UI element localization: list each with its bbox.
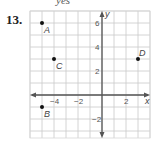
x-axis-label: x xyxy=(144,96,150,106)
point-label: B xyxy=(44,109,50,119)
point-label: D xyxy=(139,48,146,58)
y-tick-label: 4 xyxy=(95,43,100,52)
point-label: A xyxy=(43,25,50,35)
x-tick-label: −4 xyxy=(50,97,60,106)
y-axis-label: y xyxy=(104,9,110,19)
x-axis-left-arrow-icon xyxy=(30,93,36,98)
x-tick-label: −2 xyxy=(74,97,84,106)
y-tick-label: −2 xyxy=(92,115,102,124)
y-axis-up-arrow-icon xyxy=(100,11,105,17)
y-tick-label: 2 xyxy=(95,67,100,76)
coordinate-plane: xy −4−22642−2 ABCD xyxy=(0,0,155,146)
y-tick-label: 6 xyxy=(95,19,100,28)
point-label: C xyxy=(56,61,63,71)
y-axis-down-arrow-icon xyxy=(100,132,105,138)
x-tick-label: 2 xyxy=(124,97,129,106)
